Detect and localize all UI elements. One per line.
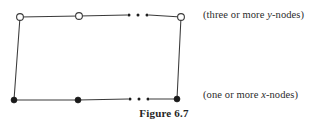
graph-ellipsis-dots (128, 14, 150, 101)
label-y-nodes-suffix: -nodes) (272, 9, 304, 20)
ellipsis-dot-y-nodes-3 (146, 14, 149, 17)
figure-caption: Figure 6.7 (0, 107, 328, 119)
ellipsis-dot-x-nodes-2 (138, 98, 141, 101)
ellipsis-dot-x-nodes-3 (147, 98, 150, 101)
label-y-nodes: (three or more y-nodes) (203, 9, 304, 20)
graph-edge-right-side-4 (177, 17, 181, 99)
graph-nodes (11, 13, 184, 103)
graph-edge-top-2 (149, 15, 181, 17)
graph-edge-bottom-6 (78, 99, 128, 100)
label-x-nodes-prefix: (one or more (203, 89, 261, 100)
label-y-nodes-prefix: (three or more (203, 9, 267, 20)
label-x-nodes-suffix: -nodes) (266, 89, 298, 100)
ellipsis-dot-y-nodes-1 (128, 14, 131, 17)
graph-node-x3 (174, 96, 180, 102)
graph-node-y2 (76, 13, 83, 20)
label-x-nodes: (one or more x-nodes) (203, 89, 298, 100)
graph-node-y1 (17, 14, 24, 21)
graph-node-y3 (178, 14, 185, 21)
graph-edges (14, 15, 181, 100)
graph-node-x1 (11, 97, 17, 103)
graph-edge-top-1 (79, 15, 127, 16)
graph-edge-left-side-3 (14, 17, 20, 100)
graph-edge-top-0 (20, 16, 79, 17)
graph-node-x2 (75, 97, 81, 103)
ellipsis-dot-y-nodes-2 (137, 14, 140, 17)
figure-page: (three or more y-nodes) (one or more x-n… (0, 0, 328, 125)
ellipsis-dot-x-nodes-1 (129, 98, 132, 101)
